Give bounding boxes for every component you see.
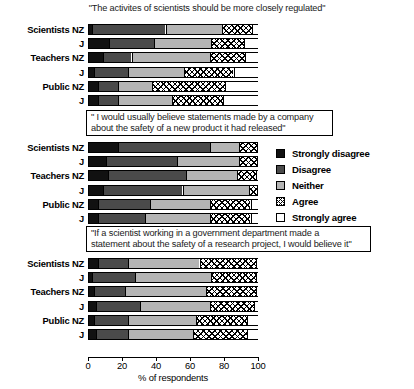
- stacked-bar: [88, 142, 258, 153]
- bar-segment-strongly_agree: [256, 259, 259, 268]
- legend-label-disagree: Disagree: [292, 162, 331, 178]
- bar-segment-neither: [128, 330, 193, 339]
- stacked-bar: [88, 185, 258, 196]
- x-axis-tick-label: 80: [219, 360, 229, 371]
- bar-segment-agree: [210, 53, 246, 62]
- bar-segment-neither: [135, 273, 212, 282]
- row-label-j: J: [79, 214, 84, 224]
- bar-segment-strongly_agree: [251, 214, 260, 223]
- panel-3-title-line-1: "If a scientist working in a government …: [91, 228, 319, 238]
- row-label-j: J: [79, 302, 84, 312]
- bar-segment-disagree: [106, 157, 177, 166]
- bar-segment-disagree: [98, 259, 129, 268]
- bar-segment-strongly_disagree: [89, 157, 106, 166]
- bar-segment-strongly_agree: [256, 273, 259, 282]
- row-label-teachers-nz: Teachers NZ: [31, 171, 84, 181]
- stacked-bar: [88, 199, 258, 210]
- bar-segment-strongly_agree: [256, 171, 259, 180]
- stacked-bar: [88, 52, 258, 63]
- legend-label-strongly_disagree: Strongly disagree: [292, 146, 370, 162]
- panel-3-title-line-2: statement about the safety of a research…: [91, 239, 352, 249]
- stacked-bar: [88, 95, 258, 106]
- row-label-j: J: [79, 68, 84, 78]
- bar-segment-disagree: [103, 186, 183, 195]
- bar-segment-agree: [239, 157, 258, 166]
- bar-segment-agree: [210, 214, 251, 223]
- stacked-bar: [88, 286, 258, 297]
- row-label-j: J: [79, 273, 84, 283]
- x-axis-tick-label: 60: [185, 360, 195, 371]
- stacked-bar: [88, 24, 258, 35]
- bar-segment-strongly_agree: [257, 143, 259, 152]
- row-label-scientists-nz: Scientists NZ: [27, 143, 84, 153]
- bar-segment-strongly_agree: [247, 316, 259, 325]
- bar-segment-strongly_disagree: [89, 96, 98, 105]
- bar-segment-strongly_disagree: [89, 143, 118, 152]
- bar-segment-strongly_agree: [254, 302, 259, 311]
- bar-segment-disagree: [94, 68, 128, 77]
- x-axis-tick-label: 100: [250, 360, 265, 371]
- panel-title-regulation: "The activites of scientists should be m…: [0, 3, 414, 14]
- row-label-public-nz: Public NZ: [43, 82, 84, 92]
- stacked-bar: [88, 272, 258, 283]
- bar-segment-disagree: [92, 273, 135, 282]
- bar-segment-disagree: [98, 82, 118, 91]
- bar-segment-agree: [211, 273, 255, 282]
- legend-swatch-disagree: [276, 165, 285, 174]
- bar-segment-agree: [152, 82, 225, 91]
- stacked-bar: [88, 67, 258, 78]
- bar-segment-neither: [140, 302, 210, 311]
- bar-segment-agree: [237, 171, 256, 180]
- row-label-j: J: [79, 157, 84, 167]
- bar-segment-neither: [128, 259, 199, 268]
- stacked-bar: [88, 213, 258, 224]
- x-axis-tick-label: 0: [85, 360, 90, 371]
- bar-segment-agree: [211, 39, 243, 48]
- x-axis-tick-label: 40: [151, 360, 161, 371]
- bar-segment-strongly_agree: [234, 68, 260, 77]
- bar-segment-strongly_agree: [225, 82, 259, 91]
- bar-segment-strongly_agree: [244, 39, 259, 48]
- row-label-j: J: [79, 330, 84, 340]
- bar-segment-agree: [196, 316, 247, 325]
- bar-segment-disagree: [103, 53, 132, 62]
- stacked-bar: [88, 170, 258, 181]
- bar-segment-strongly_agree: [257, 157, 259, 166]
- bar-segment-strongly_disagree: [89, 330, 96, 339]
- bar-segment-strongly_disagree: [89, 259, 98, 268]
- x-axis-title: % of respondents: [88, 372, 258, 383]
- row-label-scientists-nz: Scientists NZ: [27, 25, 84, 35]
- bar-segment-neither: [118, 82, 152, 91]
- legend-label-agree: Agree: [292, 194, 318, 210]
- bar-segment-disagree: [109, 39, 153, 48]
- row-label-scientists-nz: Scientists NZ: [27, 259, 84, 269]
- row-label-public-nz: Public NZ: [43, 200, 84, 210]
- bar-segment-agree: [193, 330, 247, 339]
- stacked-bar: [88, 258, 258, 269]
- bar-segment-strongly_disagree: [89, 200, 98, 209]
- bar-segment-neither: [145, 214, 210, 223]
- bar-segment-agree: [184, 68, 233, 77]
- bar-segment-strongly_disagree: [89, 39, 109, 48]
- bar-segment-disagree: [98, 96, 118, 105]
- bar-segment-neither: [177, 157, 238, 166]
- bar-segment-neither: [128, 316, 196, 325]
- bar-segment-neither: [183, 186, 249, 195]
- bar-segment-agree: [222, 25, 253, 34]
- panel-title-company-product: " I would usually believe statements mad…: [86, 110, 333, 136]
- bar-segment-neither: [150, 200, 210, 209]
- bar-segment-agree: [206, 287, 255, 296]
- legend-label-strongly_agree: Strongly agree: [292, 210, 356, 226]
- bar-segment-neither: [132, 53, 210, 62]
- bar-segment-neither: [166, 25, 222, 34]
- row-label-j: J: [79, 96, 84, 106]
- bar-segment-neither: [154, 39, 212, 48]
- row-label-j: J: [79, 39, 84, 49]
- bar-segment-agree: [172, 96, 223, 105]
- panel-2-title-line-1: " I would usually believe statements mad…: [91, 112, 313, 122]
- bar-segment-neither: [118, 96, 172, 105]
- legend-swatch-neither: [276, 181, 285, 190]
- x-axis-tick-label: 20: [117, 360, 127, 371]
- stacked-bar: [88, 315, 258, 326]
- row-label-public-nz: Public NZ: [43, 316, 84, 326]
